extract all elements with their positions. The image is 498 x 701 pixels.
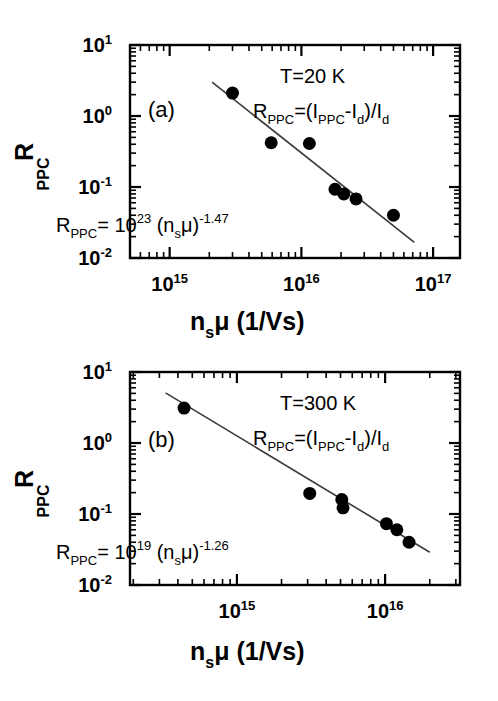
panel-a-definition-annotation: RPPC=(IPPC-Id)/Id	[253, 100, 389, 127]
data-point	[337, 501, 350, 514]
data-point	[265, 136, 278, 149]
y-tick-label: 100	[83, 103, 112, 127]
panel-b-fit-mu: μ)	[181, 541, 199, 563]
data-point	[178, 402, 191, 415]
panel-a-fit-r-sub: PPC	[70, 226, 97, 241]
panel-b-definition-annotation: RPPC=(IPPC-Id)/Id	[253, 427, 389, 454]
panel-b-y-axis-label-main: R	[10, 470, 38, 488]
panel-b-x-axis-n-sub: s	[205, 654, 214, 671]
panel-a-chart: 10110010-110-2 101510161017 (a) T=20 K R…	[0, 0, 498, 350]
panel-a-fit-annotation: RPPC= 1023 (nsμ)-1.47	[56, 211, 229, 241]
panel-a-def-d-sub2: d	[382, 112, 389, 127]
panel-b-temperature-annotation: T=300 K	[280, 392, 357, 414]
panel-a-def-minus: -I	[345, 100, 357, 122]
panel-b-data-points	[178, 402, 416, 549]
y-tick-label: 10-1	[78, 174, 112, 198]
data-point	[303, 487, 316, 500]
y-tick-label: 10-2	[78, 245, 112, 269]
panel-a-def-close: )/I	[364, 100, 382, 122]
panel-b-fit-r: R	[56, 541, 70, 563]
panel-b-fit-prefactor-exp: 19	[137, 538, 151, 553]
y-tick-label: 100	[83, 430, 112, 454]
panel-a-y-axis-label-sub: PPC	[35, 157, 52, 190]
x-tick-label: 1016	[283, 271, 320, 295]
panel-b-x-tick-labels: 10151016	[219, 598, 404, 622]
x-tick-label: 1015	[151, 271, 188, 295]
panel-a-svg: 10110010-110-2 101510161017 (a) T=20 K R…	[0, 0, 498, 350]
y-tick-label: 10-1	[78, 501, 112, 525]
panel-b-def-d-sub2: d	[382, 439, 389, 454]
data-point	[337, 187, 350, 200]
panel-a-x-axis-n-sub: s	[205, 324, 214, 341]
panel-a-fit-r: R	[56, 214, 70, 236]
panel-a-label: (a)	[148, 97, 175, 122]
panel-b-def-d-sub1: d	[357, 439, 364, 454]
y-tick-label: 101	[83, 32, 112, 56]
panel-b-x-axis-mu: μ (1/Vs)	[214, 637, 304, 665]
figure-container: 10110010-110-2 101510161017 (a) T=20 K R…	[0, 0, 498, 701]
panel-b-fit-paren: (n	[151, 541, 174, 563]
panel-a-def-r: R	[253, 100, 267, 122]
panel-a-fit-mu: μ)	[181, 214, 199, 236]
panel-a-y-axis-label: R PPC	[10, 143, 52, 190]
data-point	[387, 209, 400, 222]
panel-a-fit-prefactor-exp: 23	[137, 211, 151, 226]
data-point	[350, 192, 363, 205]
panel-b-y-axis-label: R PPC	[10, 470, 52, 517]
x-tick-label: 1017	[415, 271, 452, 295]
panel-b-svg: 10110010-110-2 10151016 (b) T=300 K RPPC…	[0, 350, 498, 700]
panel-a-x-axis-label: nsμ (1/Vs)	[190, 307, 305, 341]
panel-a-x-axis-mu: μ (1/Vs)	[214, 307, 304, 335]
panel-a-fit-eq: = 10	[97, 214, 136, 236]
panel-b-def-r-sub: PPC	[267, 439, 294, 454]
panel-b-def-eq: =(I	[294, 427, 318, 449]
x-tick-label: 1015	[219, 598, 256, 622]
panel-b-def-minus: -I	[345, 427, 357, 449]
panel-a-def-d-sub1: d	[357, 112, 364, 127]
panel-b-x-axis-n: n	[190, 637, 205, 665]
panel-a-x-tick-labels: 101510161017	[151, 271, 451, 295]
panel-b-y-axis-label-sub: PPC	[35, 484, 52, 517]
panel-a-temperature-annotation: T=20 K	[280, 65, 346, 87]
y-tick-label: 101	[83, 359, 112, 383]
panel-b-fit-r-sub: PPC	[70, 553, 97, 568]
panel-a-def-i-sub: PPC	[318, 112, 345, 127]
x-tick-label: 1016	[367, 598, 404, 622]
panel-a-y-axis-label-main: R	[10, 143, 38, 161]
panel-b-def-close: )/I	[364, 427, 382, 449]
y-tick-label: 10-2	[78, 572, 112, 596]
panel-b-def-i-sub: PPC	[318, 439, 345, 454]
data-point	[226, 87, 239, 100]
panel-a-fit-paren: (n	[151, 214, 174, 236]
panel-a-def-eq: =(I	[294, 100, 318, 122]
data-point	[403, 536, 416, 549]
panel-b-fit-exponent: -1.26	[199, 538, 229, 553]
panel-b-label: (b)	[148, 427, 175, 452]
panel-b-chart: 10110010-110-2 10151016 (b) T=300 K RPPC…	[0, 350, 498, 700]
panel-a-def-r-sub: PPC	[267, 112, 294, 127]
panel-b-x-axis-label: nsμ (1/Vs)	[190, 637, 305, 671]
panel-a-x-axis-n: n	[190, 307, 205, 335]
panel-b-fit-annotation: RPPC= 1019 (nsμ)-1.26	[56, 538, 229, 568]
data-point	[390, 523, 403, 536]
panel-b-fit-eq: = 10	[97, 541, 136, 563]
data-point	[303, 137, 316, 150]
panel-a-fit-exponent: -1.47	[199, 211, 229, 226]
panel-b-def-r: R	[253, 427, 267, 449]
